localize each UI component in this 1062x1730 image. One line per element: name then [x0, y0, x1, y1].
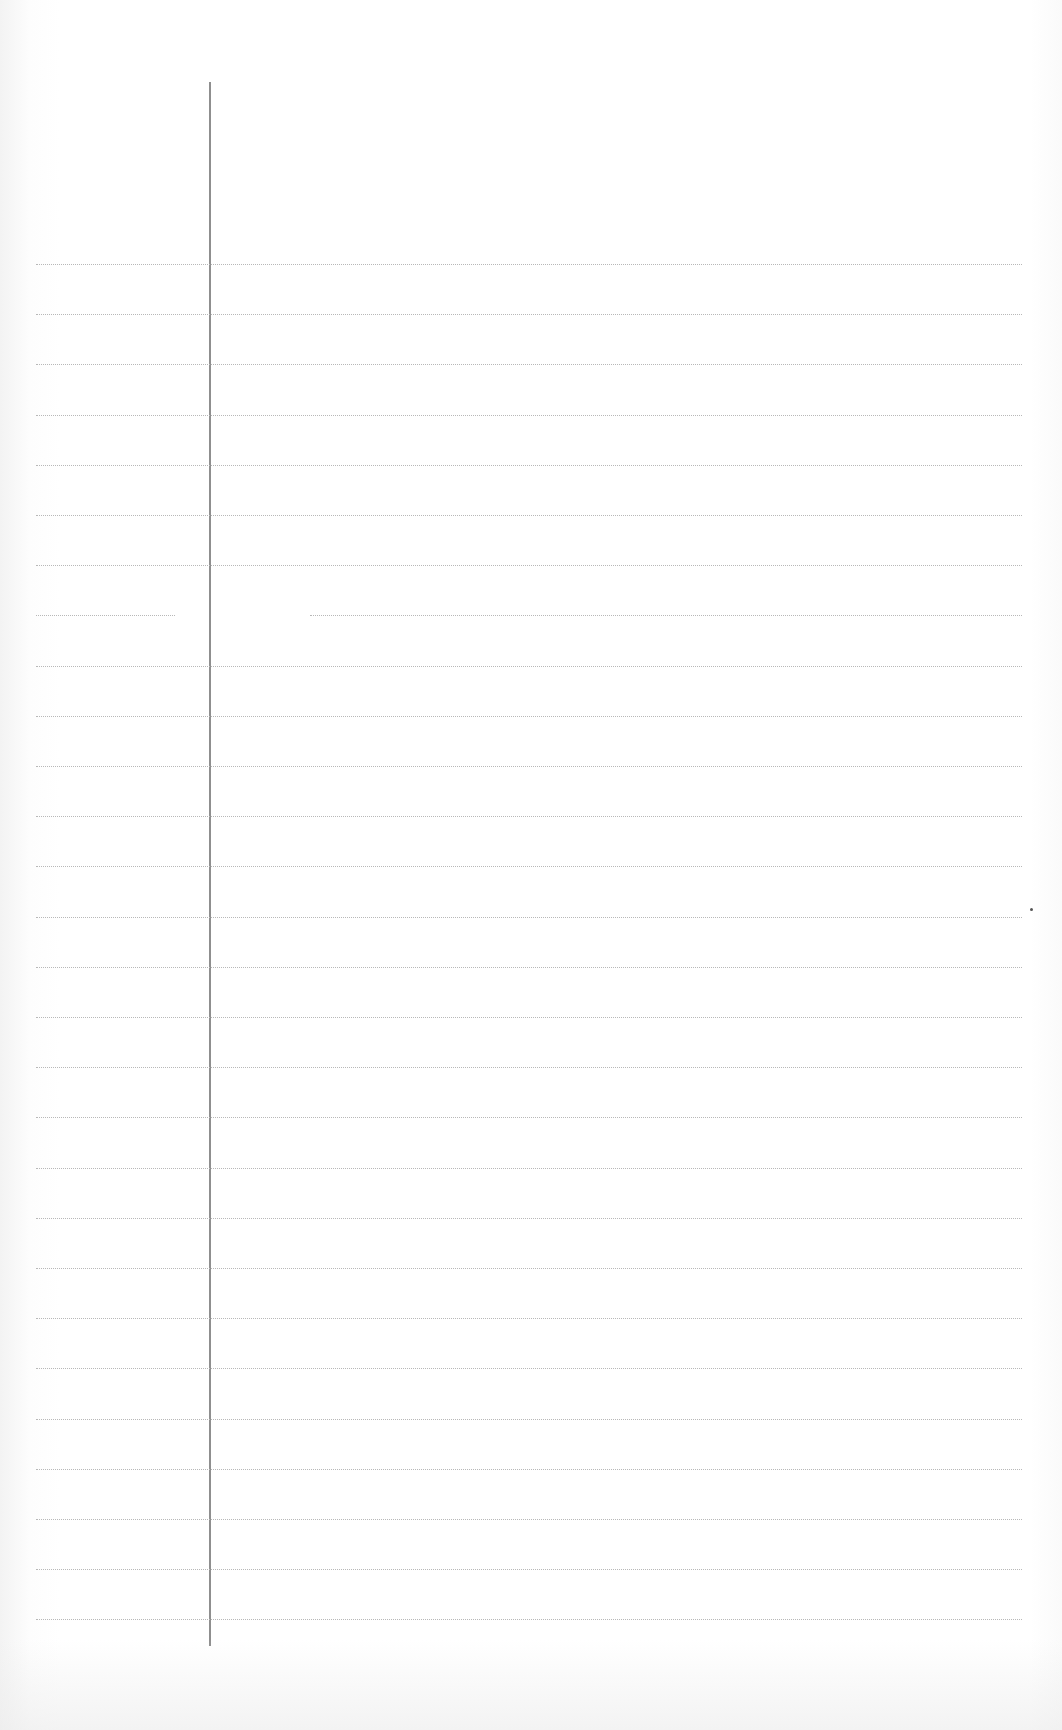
ruled-line — [36, 1117, 1022, 1118]
ruled-line — [36, 866, 1022, 867]
ruled-line — [36, 364, 1022, 365]
ruled-line — [36, 465, 1022, 466]
ruled-line — [36, 1419, 1022, 1420]
ruled-line — [36, 1017, 1022, 1018]
ruled-line — [36, 415, 1022, 416]
ruled-line — [36, 264, 1022, 265]
ruled-line — [36, 666, 1022, 667]
ruled-line — [36, 615, 175, 616]
ruled-line — [36, 1218, 1022, 1219]
paper-speck — [1030, 908, 1033, 911]
ruled-line — [36, 1318, 1022, 1319]
ruled-line — [36, 1519, 1022, 1520]
ruled-line — [36, 816, 1022, 817]
ruled-line — [36, 766, 1022, 767]
ruled-line — [36, 1569, 1022, 1570]
ruled-line — [36, 314, 1022, 315]
ruled-line — [36, 1168, 1022, 1169]
ruled-line — [36, 716, 1022, 717]
margin-line — [209, 82, 211, 1646]
ruled-line — [36, 1619, 1022, 1620]
ruled-line — [36, 1067, 1022, 1068]
ruled-line — [36, 565, 1022, 566]
ruled-line — [36, 1368, 1022, 1369]
ruled-line — [36, 1268, 1022, 1269]
ruled-line — [310, 615, 1022, 616]
notebook-page — [0, 0, 1062, 1730]
ruled-line — [36, 515, 1022, 516]
ruled-line — [36, 917, 1022, 918]
ruled-line — [36, 1469, 1022, 1470]
ruled-line — [36, 967, 1022, 968]
